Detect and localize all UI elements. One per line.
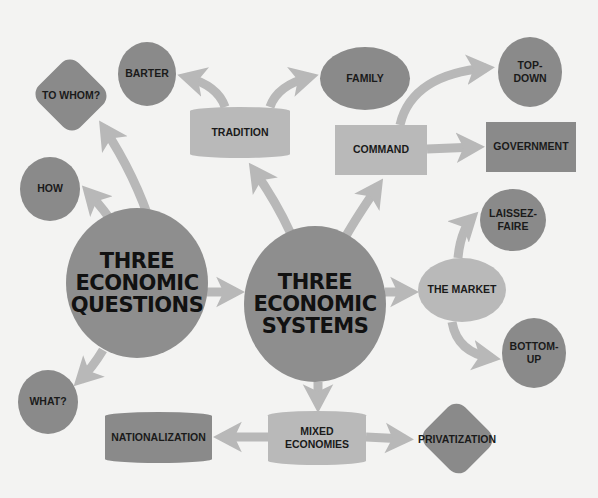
the-market-node: THE MARKET [418,258,506,322]
tradition-node: TRADITION [190,107,290,158]
command-node: COMMAND [335,125,427,175]
arrow-systems-tradition [254,170,290,232]
privatization-label: PRIVATIZATION [412,399,502,479]
three-economic-systems-label: THREE ECONOMIC SYSTEMS [253,271,376,337]
three-economic-questions-label: THREE ECONOMIC QUESTIONS [71,250,204,316]
to-whom-label: TO WHOM? [25,54,117,136]
arrow-tradition-barter [186,77,225,107]
bottom-up-label: BOTTOM- UP [510,340,559,366]
family-node: FAMILY [320,47,410,110]
command-label: COMMAND [353,143,409,156]
three-economic-systems-node: THREE ECONOMIC SYSTEMS [244,226,386,382]
how-node: HOW [20,157,80,221]
government-label: GOVERNMENT [493,140,568,153]
arrow-command-top-down [400,68,486,125]
arrow-systems-command [346,186,378,236]
what-label: WHAT? [29,395,66,408]
what-node: WHAT? [18,370,78,434]
barter-node: BARTER [118,42,176,106]
laissez-faire-label: LAISSEZ- FAIRE [489,207,537,233]
top-down-node: TOP- DOWN [498,37,562,107]
nationalization-label: NATIONALIZATION [111,431,206,444]
arrow-market-laissez-faire [458,218,472,258]
three-economic-questions-node: THREE ECONOMIC QUESTIONS [66,208,208,358]
arrow-questions-what [80,350,103,380]
arrow-market-bottom-up [452,322,492,358]
arrow-command-government [427,147,476,149]
arrow-tradition-family [270,77,310,107]
nationalization-node: NATIONALIZATION [105,412,212,463]
mixed-economies-label: MIXED ECONOMIES [285,425,349,451]
arrow-mixed-privatization [366,437,405,439]
mixed-economies-node: MIXED ECONOMIES [268,411,366,465]
privatization-node: PRIVATIZATION [412,399,502,479]
government-node: GOVERNMENT [486,122,576,172]
barter-label: BARTER [125,67,169,80]
the-market-label: THE MARKET [428,283,497,296]
family-label: FAMILY [346,72,384,85]
bottom-up-node: BOTTOM- UP [502,318,566,388]
tradition-label: TRADITION [211,126,268,139]
top-down-label: TOP- DOWN [513,59,546,85]
to-whom-node: TO WHOM? [25,54,117,136]
how-label: HOW [37,182,63,195]
laissez-faire-node: LAISSEZ- FAIRE [480,189,546,251]
